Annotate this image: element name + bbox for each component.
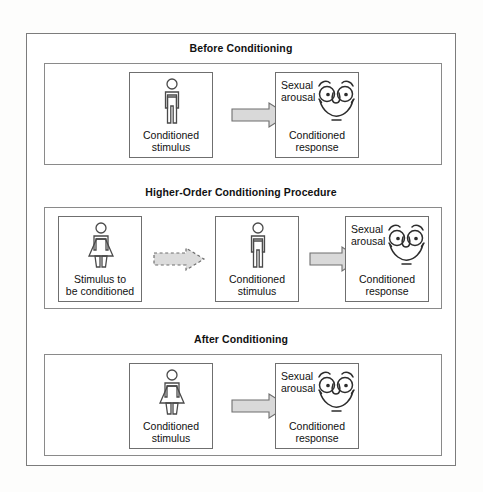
corner-label-line2: arousal [281, 91, 315, 104]
stage-panel-after-conditioning: Conditioned stimulus Sexual arousal [44, 354, 442, 456]
item-caption-line1: Stimulus to [59, 273, 141, 286]
stage-title-after-conditioning: After Conditioning [27, 329, 455, 345]
item-box-conditioned-response: Sexual arousal [275, 363, 359, 449]
stage-panel-higher-order-conditioning: Stimulus to be conditioned [44, 207, 442, 309]
item-caption-line1: Conditioned [276, 420, 358, 433]
corner-label-line1: Sexual [281, 79, 313, 92]
corner-label-line1: Sexual [281, 370, 313, 383]
corner-label-line2: arousal [281, 382, 315, 395]
item-caption-line2: response [276, 432, 358, 445]
stage-title-higher-order-conditioning: Higher-Order Conditioning Procedure [27, 182, 455, 198]
item-caption-line2: response [276, 141, 358, 154]
stage-higher-order-conditioning: Higher-Order Conditioning Procedure Stim [27, 182, 455, 322]
item-box-conditioned-stimulus: Conditioned stimulus [129, 363, 213, 449]
item-box-stimulus-to-be-conditioned: Stimulus to be conditioned [58, 216, 142, 302]
item-caption-line2: response [346, 285, 428, 298]
dashed-arrow-icon [153, 247, 205, 271]
item-caption-line2: be conditioned [59, 285, 141, 298]
smiley-face-icon [386, 221, 428, 269]
stage-after-conditioning: After Conditioning Conditioned [27, 329, 455, 461]
item-caption-line1: Conditioned [216, 273, 298, 286]
female-figure-icon [157, 369, 187, 415]
corner-label-line1: Sexual [351, 223, 383, 236]
male-figure-icon [158, 78, 186, 124]
item-box-conditioned-stimulus: Conditioned stimulus [129, 72, 213, 158]
item-caption-line1: Conditioned [130, 129, 212, 142]
diagram-page: Before Conditioning Conditioned stimulus [0, 0, 483, 492]
item-box-conditioned-response: Sexual arousal [345, 216, 429, 302]
item-caption-line1: Conditioned [346, 273, 428, 286]
item-box-conditioned-stimulus: Conditioned stimulus [215, 216, 299, 302]
smiley-face-icon [316, 77, 358, 125]
item-box-conditioned-response: Sexual arousal [275, 72, 359, 158]
item-caption-line1: Conditioned [130, 420, 212, 433]
stage-panel-before-conditioning: Conditioned stimulus Sexual arousal [44, 63, 442, 165]
female-figure-icon [86, 222, 116, 268]
corner-label-line2: arousal [351, 235, 385, 248]
item-caption-line2: stimulus [130, 141, 212, 154]
item-caption-line2: stimulus [130, 432, 212, 445]
diagram-outer-frame: Before Conditioning Conditioned stimulus [26, 33, 456, 466]
male-figure-icon [244, 222, 272, 268]
item-caption-line2: stimulus [216, 285, 298, 298]
item-caption-line1: Conditioned [276, 129, 358, 142]
smiley-face-icon [316, 368, 358, 416]
stage-title-before-conditioning: Before Conditioning [27, 38, 455, 54]
stage-before-conditioning: Before Conditioning Conditioned stimulus [27, 38, 455, 170]
